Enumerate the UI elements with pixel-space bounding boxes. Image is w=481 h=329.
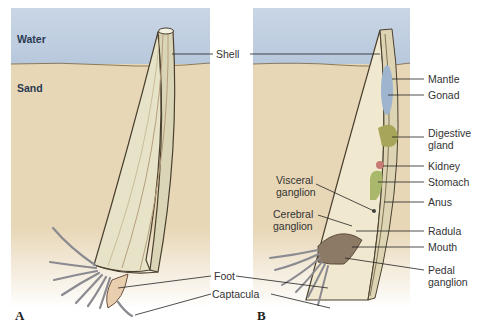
- cerebral-ganglion-label-line1: Cerebral: [273, 208, 313, 220]
- mantle-label: Mantle: [428, 73, 460, 85]
- cerebral-ganglion-label-line2: ganglion: [273, 220, 313, 232]
- mouth-label: Mouth: [428, 241, 457, 253]
- water-label: Water: [17, 33, 46, 45]
- stomach-label: Stomach: [428, 176, 469, 188]
- radula-label: Radula: [428, 225, 461, 237]
- foot-label: Foot: [214, 270, 235, 282]
- visceral-ganglion-label: Visceral ganglion: [276, 174, 316, 198]
- gonad-label: Gonad: [428, 89, 460, 101]
- digestive-gland-label-line1: Digestive: [428, 127, 471, 139]
- tusk-shell-illustration: [0, 0, 481, 329]
- pedal-ganglion-label: Pedal ganglion: [428, 264, 468, 288]
- visceral-ganglion-label-line2: ganglion: [276, 186, 316, 198]
- shell-label: Shell: [216, 48, 239, 60]
- panel-letter-a: A: [15, 308, 24, 324]
- visceral-ganglion-label-line1: Visceral: [276, 174, 316, 186]
- gonad: [381, 65, 393, 115]
- digestive-gland-label: Digestive gland: [428, 127, 471, 151]
- digestive-gland-label-line2: gland: [428, 139, 471, 151]
- kidney-label: Kidney: [428, 160, 460, 172]
- panel-letter-b: B: [257, 308, 266, 324]
- anus-label: Anus: [428, 196, 452, 208]
- sand-label: Sand: [17, 82, 43, 94]
- captacula-label: Captacula: [212, 288, 259, 300]
- pedal-ganglion-label-line2: ganglion: [428, 276, 468, 288]
- cerebral-ganglion-label: Cerebral ganglion: [273, 208, 313, 232]
- pedal-ganglion-label-line1: Pedal: [428, 264, 468, 276]
- kidney: [376, 161, 384, 169]
